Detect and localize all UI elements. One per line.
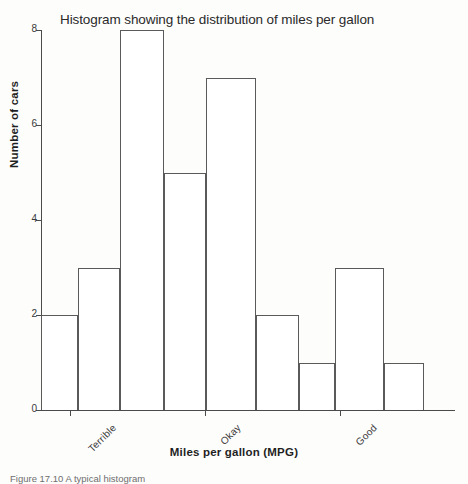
y-tick-label: 2 <box>31 308 37 320</box>
x-axis-line <box>41 410 455 411</box>
histogram-bar <box>120 30 164 410</box>
x-tick-mark <box>205 411 206 416</box>
x-tick-label: Okay <box>218 422 243 447</box>
y-axis-title: Number of cars <box>8 81 20 168</box>
histogram-bar <box>78 268 120 411</box>
x-tick-mark <box>340 411 341 416</box>
x-axis-title: Miles per gallon (MPG) <box>0 446 468 458</box>
histogram-bar <box>256 315 299 410</box>
x-tick-label: Good <box>353 422 379 448</box>
y-tick-label: 4 <box>31 213 37 225</box>
histogram-bar <box>299 363 335 411</box>
figure-caption: Figure 17.10 A typical histogram <box>10 473 145 484</box>
y-tick-label: 0 <box>31 403 37 415</box>
x-tick-mark <box>70 411 71 416</box>
histogram-bar <box>384 363 424 411</box>
y-tick-label: 6 <box>31 118 37 130</box>
histogram-bar <box>164 173 206 411</box>
histogram-figure: Histogram showing the distribution of mi… <box>0 0 468 484</box>
plot-area: 02468 TerribleOkayGood <box>41 30 455 411</box>
histogram-bar <box>206 78 256 411</box>
histogram-bar <box>41 315 78 410</box>
histogram-bar <box>335 268 384 411</box>
y-tick-label: 8 <box>31 23 37 35</box>
chart-title: Histogram showing the distribution of mi… <box>60 12 460 27</box>
